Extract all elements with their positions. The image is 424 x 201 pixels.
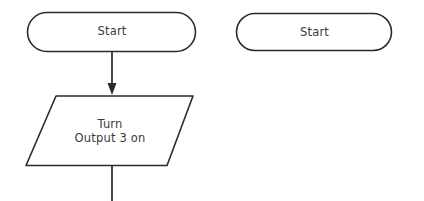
connector-start-to-turn-arrowhead-icon bbox=[108, 83, 117, 95]
flowchart-svg bbox=[0, 0, 424, 201]
node-turn-output-shape[interactable] bbox=[26, 96, 193, 166]
node-start-left-shape[interactable] bbox=[28, 13, 196, 52]
node-start-right-shape[interactable] bbox=[237, 14, 392, 51]
flowchart-canvas: Start Turn Output 3 on Start bbox=[0, 0, 424, 201]
